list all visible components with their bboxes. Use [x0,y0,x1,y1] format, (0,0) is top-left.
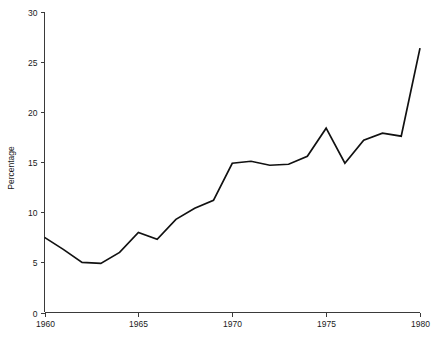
line-chart: 051015202530 Percentage 1960196519701975… [0,0,432,337]
x-tick-label: 1960 [36,319,55,329]
x-tick-label: 1965 [129,319,148,329]
x-tick-label: 1980 [411,319,430,329]
y-tick-label: 20 [28,108,38,118]
chart-canvas: 051015202530 Percentage 1960196519701975… [0,0,432,337]
x-tick-label: 1970 [223,319,242,329]
y-tick-label: 0 [33,309,38,319]
y-tick-label: 25 [28,58,38,68]
y-tick-label: 5 [33,258,38,268]
y-axis-title: Percentage [6,146,16,190]
y-tick-label: 30 [28,8,38,18]
y-tick-label: 15 [28,158,38,168]
x-tick-label: 1975 [317,319,336,329]
chart-background [0,0,432,337]
y-tick-label: 10 [28,208,38,218]
